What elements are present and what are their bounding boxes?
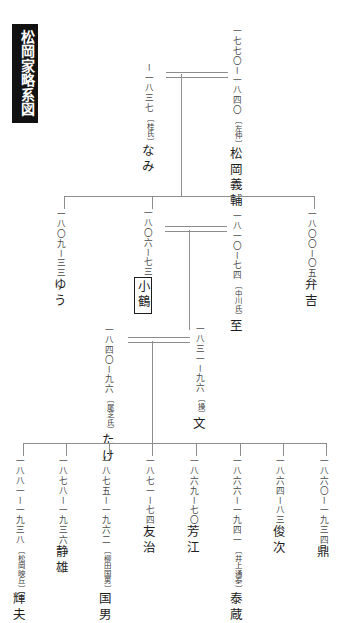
sibling-bar-gen4 [23, 443, 326, 444]
sibling-drop-kanae [326, 443, 327, 456]
person-name: 小鶴 [134, 277, 152, 313]
person-shizuo: 一八七八ー一九三六 静雄 [54, 456, 67, 576]
person-dates: 一八六〇ー一九三四 [318, 456, 327, 545]
person-name: ゆう [52, 278, 65, 309]
person-taizo: 一八六六ー一九四一 〔井上通泰〕 泰蔵 [228, 456, 241, 623]
descent-line-gen3 [152, 341, 153, 443]
person-alias: 〔左仲〕 [233, 116, 241, 146]
person-yoshie: 一八六九ー七〇 芳江 [185, 456, 198, 557]
person-name: 泰蔵 [228, 592, 241, 623]
descent-line-gen1 [181, 74, 182, 196]
person-dates: 一八六九ー七〇 [188, 456, 197, 525]
sibling-drop-shizuo [66, 443, 67, 456]
sibling-drop-kozuru [152, 196, 153, 209]
sibling-drop-yuu [64, 196, 65, 209]
person-itaru: 一八一〇ー七四 〔中川氏〕 至 [228, 211, 241, 335]
person-kunio: 一八七五ー一九六二 〔柳田国男〕 国男 [97, 456, 110, 623]
person-alias: 〔中川氏〕 [233, 281, 241, 319]
person-name: 友治 [141, 525, 154, 556]
person-shunji: 一八六四ー八三 俊次 [271, 456, 284, 557]
sibling-drop-teruo [23, 443, 24, 456]
marriage-rule-gen2 [165, 226, 227, 232]
sibling-drop-shunji [283, 443, 284, 456]
person-teruo: 一八八一ー一九三八 〔松岡映丘〕 輝夫 [11, 456, 24, 623]
marriage-rule-gen3 [128, 337, 190, 343]
person-dates: 一八三一ー九六 [194, 324, 203, 393]
person-dates: 一八六六ー一九四一 [231, 456, 240, 545]
person-dates: 一八八一ー一九三八 [14, 456, 23, 545]
person-dates: 一八〇九ー三三 [55, 209, 64, 278]
person-name: 静雄 [54, 545, 67, 576]
person-alias: 〔松岡映丘〕 [16, 546, 24, 592]
person-name: 輝夫 [11, 592, 24, 623]
person-alias: 〔尾芝氏〕 [105, 395, 113, 433]
person-kozuru: 一八〇六ー七三 小鶴 [134, 208, 152, 314]
person-name: 芳江 [185, 525, 198, 556]
person-name: 鼎 [315, 545, 328, 561]
chart-title: 松岡家略系図 [12, 24, 38, 123]
person-name: 国男 [97, 592, 110, 623]
person-name: 文 [191, 417, 204, 433]
person-dates: 一八〇六ー七三 [142, 208, 151, 277]
person-yuu: 一八〇九ー三三 ゆう [52, 209, 65, 310]
person-alias: 〔操〕 [196, 394, 204, 417]
descent-line-gen2 [189, 230, 190, 330]
person-dates: 一七七〇ー一八四〇 [231, 26, 240, 115]
sibling-drop-taizo [240, 443, 241, 456]
person-dates: 一八一〇ー七四 [231, 211, 240, 280]
person-kanae: 一八六〇ー一九三四 鼎 [315, 456, 328, 561]
person-dates: 一八七五ー一九六二 [100, 456, 109, 545]
person-fumi: 一八三一ー九六 〔操〕 文 [191, 324, 204, 433]
person-alias: 〔井上通泰〕 [233, 546, 241, 592]
sibling-drop-yoshie [196, 443, 197, 456]
marriage-rule-gen1 [166, 72, 228, 78]
person-tomoji: 一八七一ー七四 友治 [141, 456, 154, 557]
person-dates: 一八六四ー八三 [274, 456, 283, 525]
person-dates: 一八七八ー一九三六 [57, 456, 66, 545]
person-name: 俊次 [271, 525, 284, 556]
sibling-bar-gen2 [64, 196, 314, 197]
person-name: 松岡義輔 [228, 147, 241, 209]
person-dates: ー一八三七 [143, 63, 152, 113]
person-dates: 一八四〇ー九六 [103, 325, 112, 394]
person-name: なみ [140, 144, 153, 175]
person-yoshisuke: 一七七〇ー一八四〇 〔左仲〕 松岡義輔 [228, 26, 241, 209]
person-dates: 一八〇〇ー〇五 [306, 209, 315, 278]
person-nami: ー一八三七 〔桂氏〕 なみ [140, 63, 153, 175]
person-alias: 〔桂氏〕 [145, 114, 153, 144]
person-name: 至 [228, 319, 241, 335]
sibling-drop-benkichi [314, 196, 315, 209]
person-alias: 〔柳田国男〕 [102, 546, 110, 592]
sibling-drop-tomoji [152, 443, 153, 456]
person-dates: 一八七一ー七四 [144, 456, 153, 525]
person-name: 弁吉 [303, 278, 316, 309]
person-benkichi: 一八〇〇ー〇五 弁吉 [303, 209, 316, 310]
sibling-drop-kunio [109, 443, 110, 456]
